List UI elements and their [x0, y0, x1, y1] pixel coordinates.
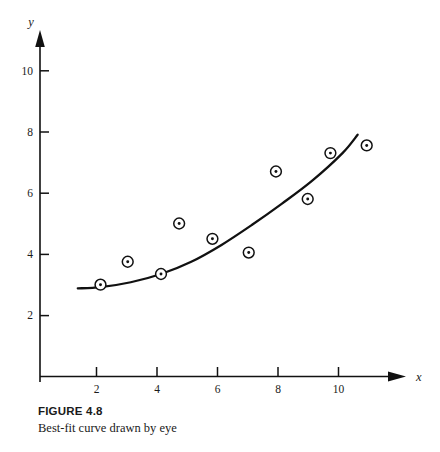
data-point-marker: [95, 279, 106, 290]
x-tick-label-8: 8: [275, 383, 281, 395]
y-tick-label-2: 2: [27, 309, 33, 321]
data-point-markers: [95, 140, 372, 290]
marker-center-dot: [211, 237, 214, 240]
figure-container: y 10 8 6 4 2 x 2 4 6 8: [0, 0, 440, 452]
y-tick-label-6: 6: [27, 187, 33, 199]
marker-center-dot: [306, 198, 309, 201]
marker-center-dot: [365, 144, 368, 147]
y-axis-label: y: [26, 15, 34, 29]
marker-center-dot: [160, 273, 163, 276]
scatter-plot-with-fit-curve: y 10 8 6 4 2 x 2 4 6 8: [0, 0, 440, 452]
y-tick-label-8: 8: [27, 126, 33, 138]
x-axis-label: x: [415, 370, 422, 384]
figure-caption-text: Best-fit curve drawn by eye: [38, 420, 398, 436]
data-point-marker: [207, 233, 218, 244]
data-point-marker: [361, 140, 372, 151]
data-point-marker: [325, 148, 336, 159]
marker-center-dot: [329, 152, 332, 155]
marker-center-dot: [247, 251, 250, 254]
x-tick-label-6: 6: [215, 383, 221, 395]
x-axis: x 2 4 6 8 10: [40, 367, 422, 395]
x-tick-label-2: 2: [94, 383, 100, 395]
x-tick-label-10: 10: [333, 383, 345, 395]
y-axis-arrow-icon: [35, 30, 45, 47]
marker-center-dot: [178, 222, 181, 225]
x-tick-label-4: 4: [154, 383, 160, 395]
marker-center-dot: [126, 260, 129, 263]
marker-center-dot: [275, 170, 278, 173]
data-point-marker: [271, 166, 282, 177]
y-tick-label-4: 4: [27, 248, 33, 260]
figure-caption-title: FIGURE 4.8: [38, 404, 398, 419]
y-axis: y 10 8 6 4 2: [22, 15, 50, 382]
best-fit-curve: [78, 135, 358, 289]
data-point-marker: [302, 194, 313, 205]
data-point-marker: [122, 256, 133, 267]
x-axis-arrow-icon: [388, 371, 406, 381]
y-tick-label-10: 10: [22, 65, 34, 77]
data-point-marker: [156, 269, 167, 280]
figure-caption: FIGURE 4.8 Best-fit curve drawn by eye: [38, 404, 398, 436]
data-point-marker: [174, 218, 185, 229]
data-point-marker: [243, 247, 254, 258]
marker-center-dot: [99, 283, 102, 286]
